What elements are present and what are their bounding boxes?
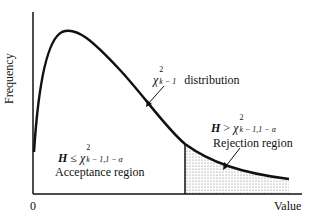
acceptance-region-label: Acceptance region [55, 166, 145, 178]
x-axis-label: Value [274, 200, 301, 212]
rejection-region-label: Rejection region [213, 137, 293, 149]
chi-square-diagram [0, 0, 316, 219]
rejection-condition: H > χ2k − 1,1 − α [211, 120, 282, 134]
curve-label-arrow [146, 86, 164, 107]
x-origin-label: 0 [30, 200, 36, 212]
acceptance-condition: H ≤ χ2k − 1,1 − α [58, 150, 129, 164]
y-axis-label: Frequency [2, 53, 17, 104]
curve-label: χ2k − 1distribution [153, 72, 240, 86]
